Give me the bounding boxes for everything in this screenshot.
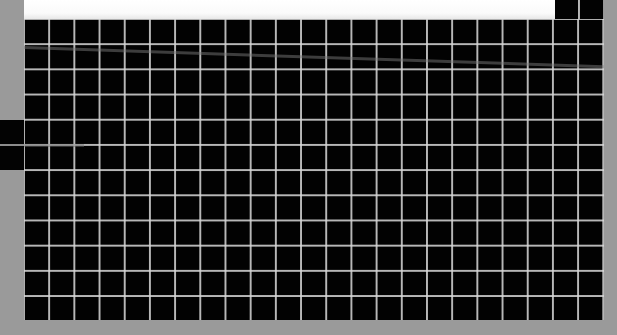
reflection-streak-left: [24, 144, 84, 147]
left-grid-extension: [0, 120, 24, 170]
white-top-band: [24, 0, 555, 19]
grid-line: [0, 144, 24, 146]
top-right-grid-extension: [555, 0, 604, 19]
